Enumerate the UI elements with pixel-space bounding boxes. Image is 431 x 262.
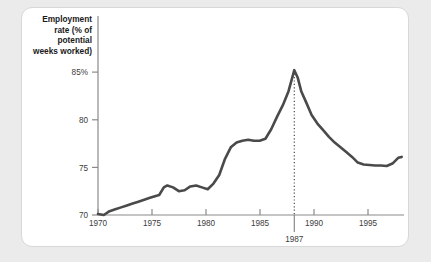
x-tick-label-1970: 1970 (89, 219, 108, 228)
y-tick-label-85: 85% (72, 68, 88, 77)
x-tick-label-1985: 1985 (251, 219, 270, 228)
y-tick-label-75: 75 (79, 164, 89, 173)
y-axis-title: Employment rate (% of potential weeks wo… (32, 14, 92, 56)
y-axis-title-line-2: rate (% of (54, 25, 92, 35)
y-axis-title-line-3: potential (57, 35, 92, 45)
employment-rate-series (98, 70, 402, 215)
x-tick-label-1980: 1980 (197, 219, 216, 228)
x-tick-label-1975: 1975 (143, 219, 162, 228)
y-axis-title-line-4: weeks worked) (32, 46, 92, 56)
y-tick-label-70: 70 (79, 211, 89, 220)
chart-svg: 85% 80 75 70 1970 1975 1980 1985 1990 19… (0, 0, 431, 262)
y-axis-title-line-1: Employment (42, 14, 92, 24)
y-tick-label-80: 80 (79, 116, 89, 125)
x-tick-label-1995: 1995 (359, 219, 378, 228)
employment-rate-line-chart: 85% 80 75 70 1970 1975 1980 1985 1990 19… (0, 0, 431, 262)
y-axis-ticks (92, 72, 98, 215)
x-axis-ticks (98, 209, 368, 215)
annotation-label-1987: 1987 (285, 235, 304, 244)
x-tick-label-1990: 1990 (305, 219, 324, 228)
